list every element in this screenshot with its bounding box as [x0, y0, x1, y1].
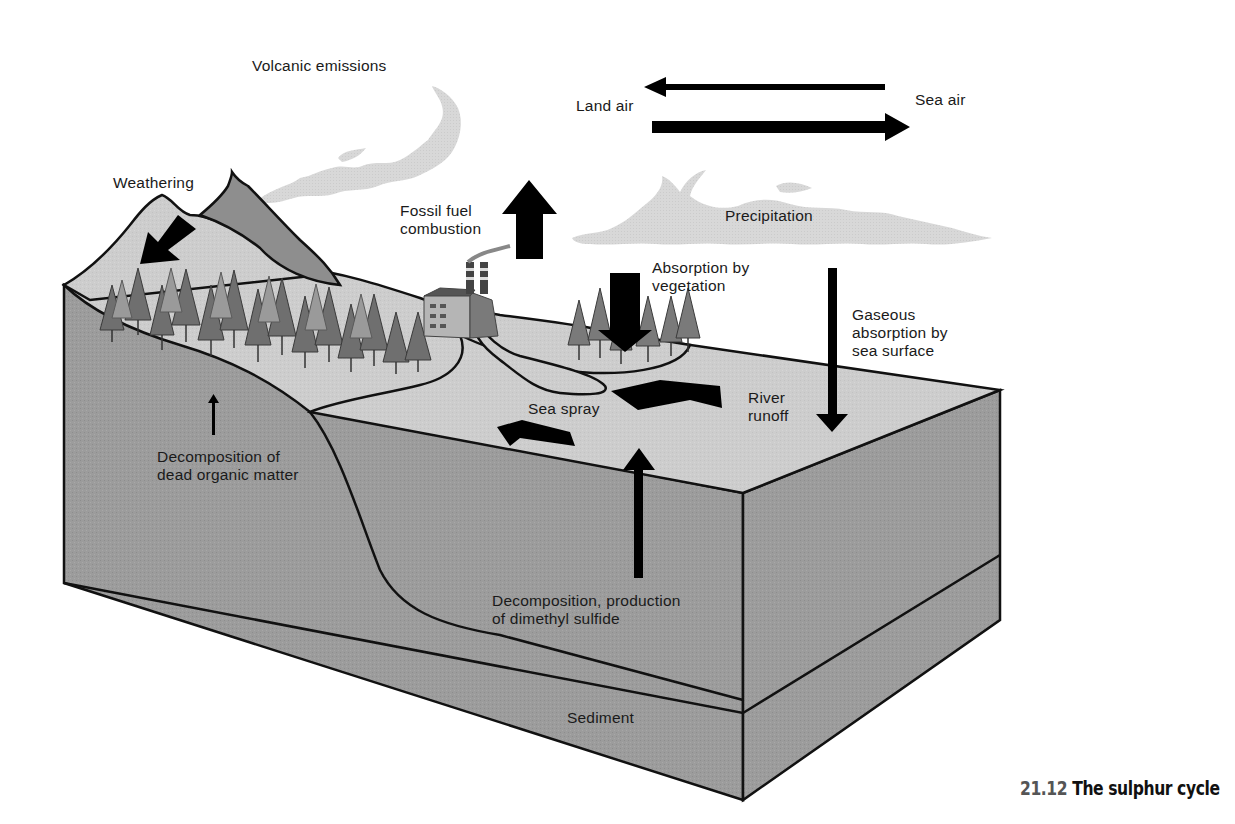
- figure-title: The sulphur cycle: [1072, 777, 1219, 799]
- label-sea-spray: Sea spray: [528, 400, 600, 418]
- label-gaseous-absorption: Gaseous absorption by sea surface: [852, 306, 948, 360]
- label-sediment: Sediment: [567, 709, 634, 727]
- label-precipitation: Precipitation: [725, 207, 813, 225]
- label-sea-air: Sea air: [915, 91, 966, 109]
- label-land-air: Land air: [576, 97, 634, 115]
- label-volcanic-emissions: Volcanic emissions: [252, 57, 387, 75]
- figure-caption: 21.12The sulphur cycle: [1020, 777, 1220, 799]
- label-decomposition-dead-organic: Decomposition of dead organic matter: [157, 448, 299, 484]
- sulphur-cycle-diagram: [0, 0, 1235, 824]
- label-absorption-by-vegetation: Absorption by vegetation: [652, 259, 749, 295]
- arrow-land-to-sea: [652, 113, 910, 141]
- figure-number: 21.12: [1020, 777, 1067, 799]
- arrow-sea-to-land: [644, 77, 885, 97]
- label-decomposition-dms: Decomposition, production of dimethyl su…: [492, 592, 681, 628]
- volcanic-cloud: [258, 86, 461, 203]
- label-weathering: Weathering: [113, 174, 194, 192]
- label-fossil-fuel-combustion: Fossil fuel combustion: [400, 202, 481, 238]
- label-river-runoff: River runoff: [748, 389, 789, 425]
